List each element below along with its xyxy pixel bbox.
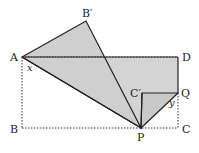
folding-diagram: A B C D B′ C′ P Q x y [0, 0, 199, 153]
angle-x-label: x [27, 62, 33, 73]
label-p: P [137, 131, 145, 144]
label-d: D [182, 51, 191, 64]
angle-y-label: y [168, 97, 175, 108]
label-b-prime: B′ [82, 7, 93, 20]
label-q: Q [181, 87, 190, 100]
label-a: A [9, 51, 19, 64]
label-b: B [10, 123, 18, 136]
label-c-prime: C′ [130, 87, 141, 100]
label-c: C [182, 123, 190, 136]
